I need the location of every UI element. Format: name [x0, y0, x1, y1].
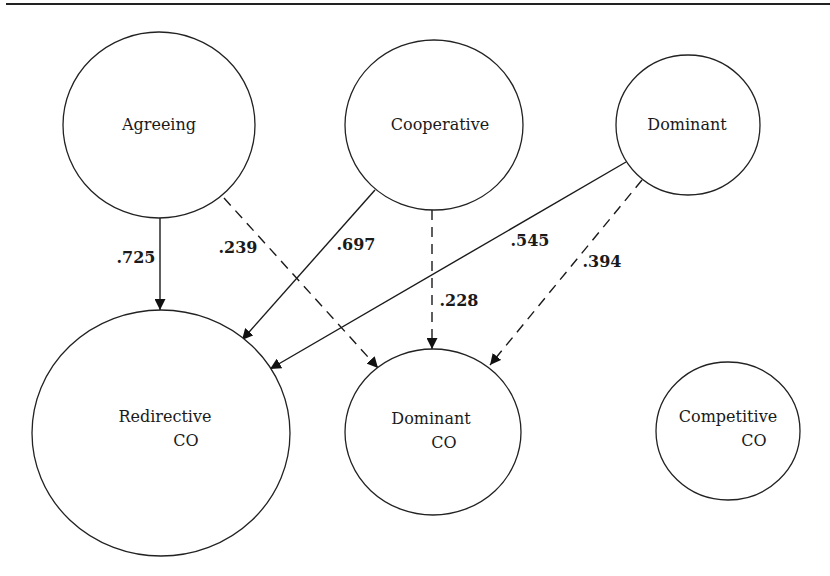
node-competitive-co-label-line-2: CO — [741, 431, 766, 450]
path-diagram: Agreeing Cooperative Dominant Redirectiv… — [0, 0, 830, 576]
node-dominant-co-label-line-2: CO — [431, 433, 456, 452]
edge-label-cooperative-redirective-co: .697 — [337, 235, 376, 254]
node-dominant-co-circle — [345, 349, 521, 515]
edge-label-dominant-dominant-co: .394 — [583, 252, 622, 271]
node-redirective-co: Redirective CO — [32, 310, 290, 556]
edge-cooperative-to-redirective-co — [242, 190, 375, 340]
node-dominant: Dominant — [616, 55, 760, 195]
node-agreeing-label: Agreeing — [121, 115, 196, 134]
edge-dominant-to-dominant-co — [490, 180, 642, 365]
node-competitive-co-circle — [656, 362, 800, 500]
node-dominant-co: Dominant CO — [345, 349, 521, 515]
edge-label-dominant-redirective-co: .545 — [511, 231, 550, 250]
node-competitive-co-label-line-1: Competitive — [679, 407, 777, 426]
node-cooperative-label: Cooperative — [391, 115, 489, 134]
node-redirective-co-label-line-1: Redirective — [118, 407, 211, 426]
node-dominant-label: Dominant — [647, 115, 727, 134]
node-dominant-co-label-line-1: Dominant — [391, 409, 471, 428]
edge-label-agreeing-redirective-co: .725 — [117, 248, 156, 267]
node-agreeing: Agreeing — [63, 32, 255, 218]
node-cooperative: Cooperative — [345, 40, 523, 210]
node-redirective-co-label-line-2: CO — [173, 431, 198, 450]
node-competitive-co: Competitive CO — [656, 362, 800, 500]
edge-label-agreeing-dominant-co: .239 — [219, 238, 258, 257]
node-redirective-co-circle — [32, 310, 290, 556]
edge-label-cooperative-dominant-co: .228 — [440, 291, 479, 310]
